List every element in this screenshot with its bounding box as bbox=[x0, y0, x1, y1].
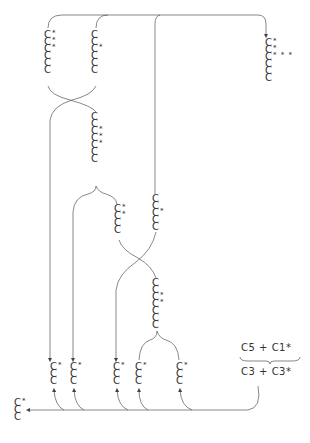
carbon-atom: C bbox=[70, 378, 80, 385]
vertical-line-right bbox=[155, 15, 160, 194]
carbon-atom: C bbox=[50, 378, 60, 385]
carbon-atom: C bbox=[135, 378, 145, 385]
carbon-chain-bottom-3: C*CC bbox=[113, 364, 123, 385]
carbon-atom: C bbox=[44, 67, 54, 74]
carbon-chain-bottom-2: C*CC bbox=[70, 364, 80, 385]
carbon-symbol: C bbox=[176, 375, 183, 387]
carbon-atom: C bbox=[152, 224, 162, 231]
carbon-chain-middle-four: C*C*CC bbox=[114, 206, 124, 234]
equation-plus-bottom: + bbox=[259, 366, 268, 377]
equation-c3: C3 bbox=[241, 366, 255, 377]
carbon-chain-bottom-1: C*CC bbox=[50, 364, 60, 385]
carbon-chain-top-middle: CCC*CCC bbox=[91, 32, 101, 74]
carbon-symbol: C bbox=[70, 375, 77, 387]
equation-c5: C5 bbox=[241, 342, 255, 353]
top-connector-line bbox=[48, 15, 266, 36]
crossing-upper-a bbox=[48, 86, 96, 112]
label-star-icon: * bbox=[143, 360, 148, 370]
carbon-symbol: C bbox=[113, 375, 120, 387]
label-star-icon: * bbox=[160, 297, 165, 307]
crossing-lower-b bbox=[116, 232, 156, 360]
carbon-chain-bottom-5: C*CC bbox=[176, 364, 186, 385]
carbon-symbol: C bbox=[14, 411, 21, 423]
label-star-icon: * bbox=[22, 396, 27, 406]
arrow-to-bottom-4 bbox=[139, 390, 148, 410]
equation-c3-star: C3* bbox=[272, 366, 292, 377]
arrow-to-bottom-5 bbox=[180, 390, 192, 410]
equation-plus-top: + bbox=[259, 342, 268, 353]
carbon-symbol: C bbox=[114, 224, 121, 236]
equation-top: C5 + C1* bbox=[241, 342, 291, 353]
carbon-atom: C bbox=[265, 75, 275, 82]
equation-brace bbox=[240, 357, 300, 364]
carbon-symbol: C bbox=[265, 72, 272, 84]
carbon-chain-final-three: C*CC bbox=[14, 400, 24, 421]
carbon-atom: C bbox=[14, 414, 24, 421]
carbon-atom: C bbox=[113, 378, 123, 385]
carbon-symbol: C bbox=[44, 64, 51, 76]
branch-lower-right bbox=[157, 331, 179, 360]
arrow-to-bottom-1 bbox=[54, 390, 64, 410]
carbon-symbol: C bbox=[152, 319, 159, 331]
label-star-icon: * bbox=[99, 138, 104, 148]
carbon-chain-top-right-product: C*C*C* * *CCC bbox=[265, 40, 275, 82]
label-star-icon: * bbox=[78, 360, 83, 370]
top-middle-connector bbox=[96, 15, 108, 28]
carbon-chain-middle-five: CCC*CC bbox=[152, 196, 162, 231]
carbon-atom: C bbox=[91, 67, 101, 74]
carbon-chain-lower-seven: CCC*C*CCC bbox=[152, 280, 162, 329]
label-star-icon: * bbox=[99, 42, 104, 52]
carbon-symbol: C bbox=[91, 153, 98, 165]
label-star-icon: * bbox=[58, 360, 63, 370]
label-star-icon: * bbox=[52, 42, 57, 52]
carbon-atom: C bbox=[91, 156, 101, 163]
carbon-symbol: C bbox=[91, 64, 98, 76]
equation-c1-star: C1* bbox=[272, 342, 292, 353]
carbon-symbol: C bbox=[135, 375, 142, 387]
carbon-chain-bottom-4: C*CC bbox=[135, 364, 145, 385]
arrow-to-bottom-3 bbox=[117, 390, 128, 410]
label-star-icon: * bbox=[122, 209, 127, 219]
label-star-icon: * bbox=[160, 206, 165, 216]
branch-middle-right bbox=[96, 186, 117, 204]
carbon-symbol: C bbox=[50, 375, 57, 387]
carbon-atom: C bbox=[114, 227, 124, 234]
carbon-chain-top-left: C*C*C*CCC bbox=[44, 32, 54, 74]
branch-lower-left bbox=[139, 331, 157, 360]
arrow-to-bottom-2 bbox=[74, 390, 84, 410]
carbon-chain-middle-seven: CCC*C*C*CC bbox=[91, 114, 101, 163]
equation-bottom: C3 + C3* bbox=[241, 366, 291, 377]
label-star-icon: * bbox=[121, 360, 126, 370]
branch-middle bbox=[73, 186, 96, 360]
carbon-atom: C bbox=[176, 378, 186, 385]
carbon-atom: C bbox=[152, 322, 162, 329]
carbon-symbol: C bbox=[152, 221, 159, 233]
label-star-icon: * bbox=[184, 360, 189, 370]
label-star-icon: * * * bbox=[273, 50, 293, 60]
